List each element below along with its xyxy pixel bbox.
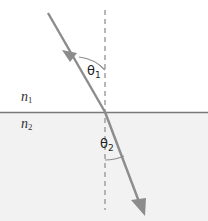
n2-subscript: 2 [28, 122, 32, 132]
label-angle-of-refraction: θ2 [100, 137, 114, 153]
refraction-diagram: n1 n2 θ1 θ2 [0, 0, 208, 221]
n1-symbol: n [21, 89, 28, 104]
theta1-subscript: 1 [95, 70, 101, 80]
theta1-symbol: θ [87, 63, 95, 78]
label-angle-of-incidence: θ1 [87, 64, 101, 80]
label-refractive-index-lower: n2 [21, 117, 32, 132]
diagram-canvas [0, 0, 208, 221]
theta2-subscript: 2 [108, 143, 114, 153]
n2-symbol: n [21, 116, 28, 131]
n1-subscript: 1 [28, 95, 32, 105]
theta2-symbol: θ [100, 136, 108, 151]
label-refractive-index-upper: n1 [21, 90, 32, 105]
